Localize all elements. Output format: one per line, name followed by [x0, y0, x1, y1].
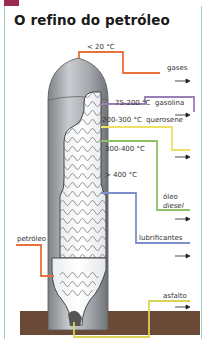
product-gasolina: gasolina [155, 99, 184, 107]
product-oleo: óleo [163, 193, 178, 201]
product-gases: gases [167, 64, 187, 72]
distillation-column-diagram [0, 0, 204, 341]
temp-gases: < 20 °C [87, 43, 115, 51]
temp-querosene: 200-300 °C [102, 116, 142, 124]
product-asfalto: asfalto [163, 292, 187, 300]
ground [20, 311, 200, 335]
product-lubrificantes: lubrificantes [139, 234, 182, 242]
temp-gasolina: 75-200 °C [115, 99, 150, 107]
temp-lubrificantes: > 400 °C [105, 171, 137, 179]
temp-diesel: 300-400 °C [105, 145, 145, 153]
product-diesel: diesel [163, 202, 184, 210]
input-petroleo: petróleo [17, 235, 46, 243]
product-querosene: querosene [146, 116, 183, 124]
